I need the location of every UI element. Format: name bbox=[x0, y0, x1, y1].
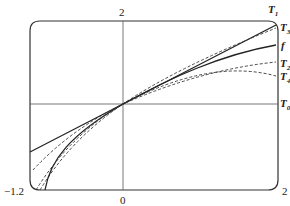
x-zero-label: 0 bbox=[120, 195, 126, 206]
label-T4: T4 bbox=[280, 71, 290, 85]
label-T3: T3 bbox=[280, 22, 290, 36]
plot-frame bbox=[30, 21, 278, 190]
y-max-label: 2 bbox=[119, 7, 125, 18]
curve-T2 bbox=[33, 62, 276, 170]
x-min-label: −1.2 bbox=[4, 186, 24, 197]
plot-area bbox=[0, 0, 290, 206]
curve-T3 bbox=[40, 28, 276, 190]
x-max-label: 2 bbox=[282, 186, 288, 197]
label-T0: T0 bbox=[280, 98, 290, 112]
label-T1: T1 bbox=[268, 4, 278, 18]
label-f: f bbox=[281, 40, 285, 51]
